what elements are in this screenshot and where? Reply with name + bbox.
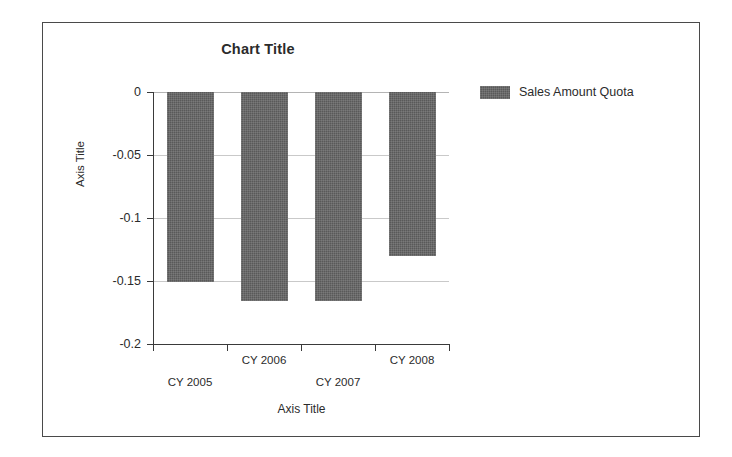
- chart-title: Chart Title: [43, 41, 473, 57]
- bar-cy-2007[interactable]: [315, 92, 362, 301]
- legend-entry-label: Sales Amount Quota: [519, 85, 634, 99]
- y-tick-label: -0.2: [81, 337, 141, 351]
- y-tick-mark: [147, 92, 154, 93]
- y-tick-label: -0.15: [81, 274, 141, 288]
- y-tick-label: 0: [81, 85, 141, 99]
- category-label-cy-2005: CY 2005: [168, 376, 213, 388]
- y-axis-title: Axis Title: [74, 141, 86, 187]
- bar-cy-2005[interactable]: [167, 92, 214, 282]
- x-tick-mark: [227, 345, 228, 351]
- x-tick-mark: [153, 345, 154, 351]
- chart-legend: Sales Amount Quota: [480, 85, 634, 99]
- series-color-swatch: [480, 86, 510, 99]
- bar-cy-2008[interactable]: [389, 92, 436, 256]
- y-tick-label: -0.1: [81, 211, 141, 225]
- category-label-cy-2007: CY 2007: [316, 376, 361, 388]
- chart-screenshot: { "chart_data": { "type": "bar", "title"…: [0, 0, 732, 457]
- x-axis-title: Axis Title: [153, 402, 450, 416]
- category-label-cy-2006: CY 2006: [242, 354, 287, 366]
- category-label-cy-2008: CY 2008: [390, 354, 435, 366]
- x-tick-mark: [449, 345, 450, 351]
- y-tick-mark: [147, 155, 154, 156]
- plot-area: [153, 92, 449, 344]
- x-tick-mark: [375, 345, 376, 351]
- y-tick-mark: [147, 218, 154, 219]
- y-tick-label: -0.05: [81, 148, 141, 162]
- bar-cy-2006[interactable]: [241, 92, 288, 301]
- x-tick-mark: [301, 345, 302, 351]
- y-tick-mark: [147, 281, 154, 282]
- chart-frame: Chart Title 0-0.05-0.1-0.15-0.2 CY 2005C…: [42, 22, 700, 437]
